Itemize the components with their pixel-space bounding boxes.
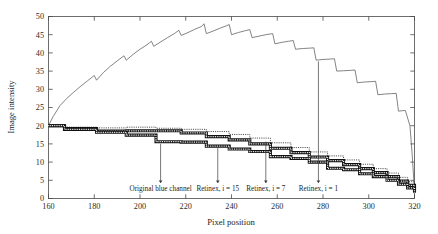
x-tick-label: 240: [225, 202, 237, 211]
y-tick-label: 5: [40, 176, 44, 185]
y-axis-title: Image intensity: [6, 80, 16, 134]
x-tick-label: 220: [180, 202, 192, 211]
y-tick-label: 50: [36, 12, 44, 21]
y-tick-label: 35: [36, 67, 44, 76]
annotation-retinex-i-1-label: Retinex, i = 1: [299, 185, 339, 193]
y-tick-label: 45: [36, 31, 44, 40]
x-tick-label: 320: [408, 202, 420, 211]
x-axis-title: Pixel position: [207, 217, 255, 227]
annotation-retinex-i-7-label: Retinex, i = 7: [246, 185, 286, 193]
annotation-original-blue-channel-label: Original blue channel: [129, 185, 191, 193]
x-tick-label: 260: [271, 202, 283, 211]
x-tick-label: 280: [317, 202, 329, 211]
x-tick-label: 300: [363, 202, 375, 211]
y-tick-label: 15: [36, 140, 44, 149]
x-tick-label: 160: [42, 202, 54, 211]
annotation-retinex-i-15-label: Retinex, i = 15: [196, 185, 239, 193]
x-tick-label: 180: [88, 202, 100, 211]
y-tick-label: 30: [36, 85, 44, 94]
y-tick-label: 40: [36, 49, 44, 58]
y-tick-label: 25: [36, 103, 44, 112]
x-tick-label: 200: [134, 202, 146, 211]
y-tick-label: 10: [36, 158, 44, 167]
x-axis-tick-labels: 160180200220240260280300320: [42, 202, 420, 211]
y-tick-label: 20: [36, 122, 44, 131]
chart-figure: 05101520253035404550 1601802002202402602…: [0, 0, 438, 234]
line-chart: 05101520253035404550 1601802002202402602…: [0, 0, 438, 234]
